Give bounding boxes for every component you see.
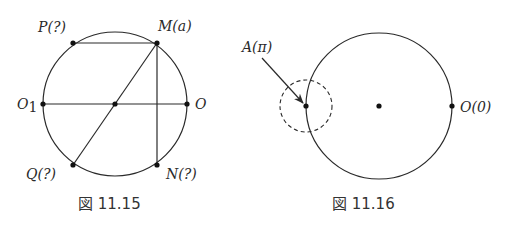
label-o: O [195,96,207,112]
diagram-canvas: P(?) M(a) O1 O Q(?) N(?) 図 11.15 A(π) O(… [0,0,506,227]
point-o1 [40,101,45,106]
point-n [154,162,159,167]
label-o1: O1 [17,96,37,115]
point-o [449,103,454,108]
point-center [376,103,381,108]
label-o: O(0) [460,99,491,115]
point-a [303,103,308,108]
label-m: M(a) [157,18,192,34]
caption-figure-11-16: 図 11.16 [332,195,395,213]
point-m [154,40,159,45]
label-n: N(?) [165,166,197,182]
label-a: A(π) [240,39,272,55]
figure-11-15: P(?) M(a) O1 O Q(?) N(?) 図 11.15 [17,18,207,213]
arrow-to-a [262,58,303,103]
point-center [112,101,117,106]
label-q: Q(?) [26,166,56,182]
label-p: P(?) [37,19,66,35]
point-o [184,101,189,106]
point-p [70,40,75,45]
figure-11-16: A(π) O(0) 図 11.16 [240,33,491,213]
caption-figure-11-15: 図 11.15 [78,195,141,213]
point-q [70,162,75,167]
